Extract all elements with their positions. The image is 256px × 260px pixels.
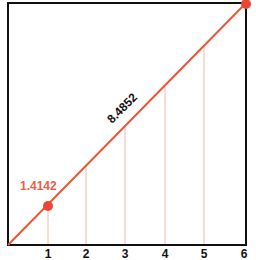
diagonal-diagram: 1.4142 8.4852 1 2 3 4 5 6 <box>0 0 256 260</box>
tick-5: 5 <box>201 247 208 260</box>
tick-4: 4 <box>162 247 169 260</box>
diagonal-length-label: 8.4852 <box>104 90 140 126</box>
diagonal-line <box>8 3 246 245</box>
tick-3: 3 <box>122 247 129 260</box>
tick-1: 1 <box>45 247 52 260</box>
point-1-label: 1.4142 <box>20 179 57 193</box>
point-1 <box>43 201 53 211</box>
vertical-guides <box>48 46 204 245</box>
x-axis-ticks: 1 2 3 4 5 6 <box>45 247 248 260</box>
tick-6: 6 <box>241 247 248 260</box>
tick-2: 2 <box>83 247 90 260</box>
